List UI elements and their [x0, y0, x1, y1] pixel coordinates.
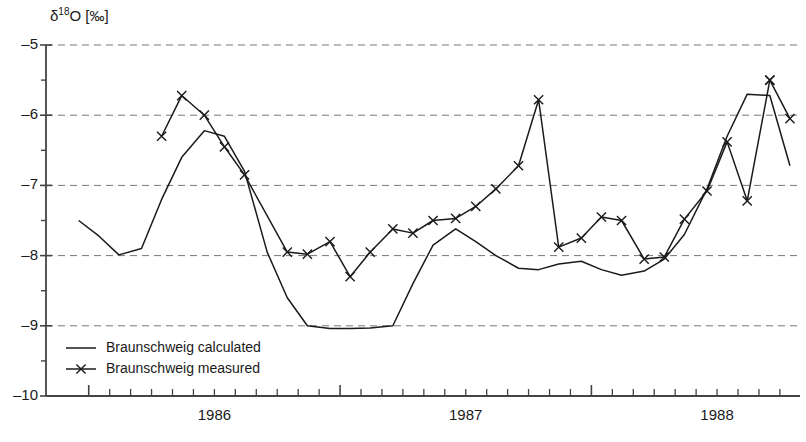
- legend-label-calculated: Braunschweig calculated: [106, 339, 261, 355]
- y-axis-tick-label: –6: [2, 105, 38, 122]
- series-marker-x: [577, 233, 586, 242]
- series-marker-x: [177, 91, 186, 100]
- series-marker-x: [723, 137, 732, 146]
- series-marker-x: [514, 161, 523, 170]
- series-marker-x: [325, 237, 334, 246]
- series-line-2: [770, 80, 790, 119]
- series-marker-x: [346, 272, 355, 281]
- y-axis-tick-label: –5: [2, 35, 38, 52]
- y-axis-title: δ18O [‰]: [50, 6, 109, 24]
- series-marker-x: [471, 202, 480, 211]
- x-axis-tick-label: 1987: [436, 406, 496, 423]
- series-marker-x: [220, 142, 229, 151]
- x-axis-tick-label: 1988: [687, 406, 747, 423]
- series-line-1: [162, 80, 770, 277]
- y-axis-tick-label: –8: [2, 246, 38, 263]
- y-axis-tick-label: –10: [2, 386, 38, 403]
- x-axis-tick-label: 1986: [184, 406, 244, 423]
- series-marker-x: [680, 214, 689, 223]
- series-line-0: [79, 94, 790, 328]
- legend-label-measured: Braunschweig measured: [106, 360, 260, 376]
- series-marker-x: [785, 114, 794, 123]
- chart-figure: δ18O [‰]–5–6–7–8–9–10198619871988Braunsc…: [0, 0, 806, 442]
- y-axis-tick-label: –9: [2, 316, 38, 333]
- y-axis-tick-label: –7: [2, 175, 38, 192]
- series-marker-x: [157, 132, 166, 141]
